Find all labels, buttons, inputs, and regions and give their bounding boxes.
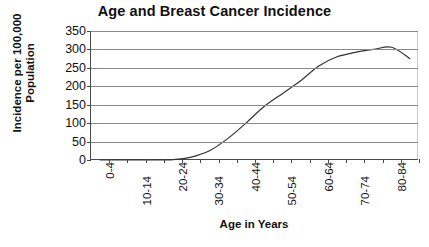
gridline: [91, 49, 418, 50]
gridline: [91, 31, 418, 32]
y-axis-title-line-1: Incidence per 100,000: [11, 14, 25, 133]
y-tick-label: 0: [48, 154, 86, 166]
y-tick-label: 50: [48, 136, 86, 148]
x-tick-label: 50-54: [286, 176, 298, 205]
y-tick-mark: [87, 142, 91, 143]
x-tick-label: 60-64: [323, 162, 335, 191]
gridline: [91, 86, 418, 87]
y-tick-label: 100: [48, 117, 86, 129]
y-tick-mark: [87, 68, 91, 69]
y-tick-mark: [87, 31, 91, 32]
x-tick-label: 0-4: [104, 162, 116, 179]
gridline: [91, 68, 418, 69]
chart-title: Age and Breast Cancer Incidence: [0, 3, 429, 19]
x-axis-tick-labels: 0-410-1420-2430-3440-4450-5460-6470-7480…: [90, 162, 418, 214]
chart-figure: Age and Breast Cancer Incidence Incidenc…: [0, 0, 429, 247]
x-tick-label: 80-84: [396, 162, 408, 191]
y-tick-mark: [87, 123, 91, 124]
x-axis-title: Age in Years: [90, 218, 418, 230]
y-tick-mark: [87, 160, 91, 161]
gridline: [91, 123, 418, 124]
x-tick-label: 70-74: [359, 176, 371, 205]
gridline: [91, 105, 418, 106]
y-tick-label: 200: [48, 80, 86, 92]
y-axis-title-line-2: Population: [24, 14, 38, 133]
x-tick-label: 40-44: [250, 162, 262, 191]
y-tick-label: 350: [48, 25, 86, 37]
y-tick-mark: [87, 86, 91, 87]
x-tick-label: 30-34: [213, 176, 225, 205]
y-tick-mark: [87, 105, 91, 106]
y-tick-label: 250: [48, 62, 86, 74]
y-tick-mark: [87, 49, 91, 50]
plot-area: [90, 31, 418, 160]
x-tick-label: 20-24: [177, 162, 189, 191]
gridline: [91, 142, 418, 143]
y-tick-label: 150: [48, 99, 86, 111]
x-tick-mark: [419, 159, 420, 163]
y-axis-title: Incidence per 100,000 Population: [0, 3, 48, 143]
x-tick-label: 10-14: [141, 176, 153, 205]
y-tick-label: 300: [48, 43, 86, 55]
y-axis-tick-labels: 050100150200250300350: [48, 24, 86, 166]
